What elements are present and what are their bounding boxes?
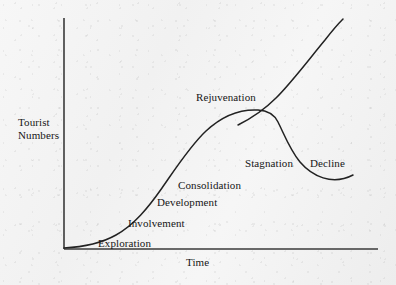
stage-label-development: Development xyxy=(157,196,217,209)
life-cycle-plot xyxy=(0,0,396,285)
y-axis-label: Tourist Numbers xyxy=(18,116,59,141)
y-axis-label-line-1: Tourist xyxy=(18,116,59,129)
stage-label-stagnation: Stagnation xyxy=(245,157,293,170)
x-axis-label: Time xyxy=(186,256,209,269)
stage-label-exploration: Exploration xyxy=(98,237,151,250)
stage-label-rejuvenation: Rejuvenation xyxy=(196,91,256,104)
y-axis-label-line-2: Numbers xyxy=(18,129,59,142)
rejuvenation-curve xyxy=(238,19,343,125)
stage-label-involvement: Involvement xyxy=(128,217,185,230)
stage-label-consolidation: Consolidation xyxy=(178,179,241,192)
stage-label-decline: Decline xyxy=(310,157,345,170)
tourism-area-life-cycle-figure: Tourist Numbers Time Exploration Involve… xyxy=(0,0,396,285)
